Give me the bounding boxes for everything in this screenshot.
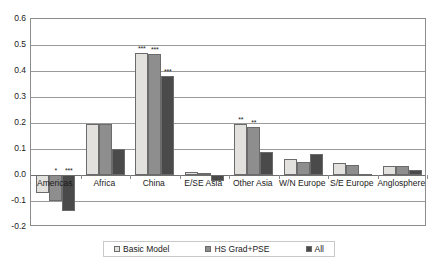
bar-group: [185, 19, 224, 225]
bar: [198, 173, 211, 175]
bar-chart: 0.60.50.40.30.20.10.0-0.1-0.2 **********…: [0, 0, 438, 270]
y-axis-tick-label: 0.5: [0, 40, 26, 49]
bar: [185, 172, 198, 175]
y-axis-tick-label: 0.0: [0, 170, 26, 179]
x-axis-category-label: Anglosphere: [377, 179, 427, 188]
significance-marker: ***: [157, 68, 178, 75]
bar: [333, 163, 346, 175]
x-axis-category-label: Americas: [30, 179, 80, 188]
y-axis-tick-label: 0.3: [0, 92, 26, 101]
bar-group: [383, 19, 422, 225]
bar-group: [284, 19, 323, 225]
plot-area: *****************: [30, 18, 426, 226]
y-axis-tick-label: 0.4: [0, 66, 26, 75]
bar: [234, 124, 247, 175]
bar-group: *********: [135, 19, 174, 225]
x-axis-category-label: W/N Europe: [278, 179, 328, 188]
bar: [396, 166, 409, 175]
significance-marker: **: [243, 119, 264, 126]
bar: [260, 152, 273, 175]
legend-swatch-light: [114, 246, 120, 252]
bar: [284, 159, 297, 175]
legend-item: Basic Model: [114, 244, 169, 254]
bar: [297, 162, 310, 175]
bar: [161, 76, 174, 175]
bar: [359, 174, 372, 176]
bar: [310, 154, 323, 175]
y-axis-tick-label: -0.1: [0, 196, 26, 205]
x-axis-tick-mark: [427, 175, 428, 179]
y-axis-tick-label: 0.6: [0, 14, 26, 23]
x-axis-category-label: E/SE Asia: [179, 179, 229, 188]
x-axis-category-label: Africa: [80, 179, 130, 188]
bar-group: [86, 19, 125, 225]
legend-item: All: [306, 244, 324, 254]
y-axis-tick-label: 0.2: [0, 118, 26, 127]
legend-item: HS Grad+PSE: [205, 244, 269, 254]
y-axis-tick-label: 0.1: [0, 144, 26, 153]
bar: [346, 165, 359, 175]
legend-item-label: Basic Model: [123, 244, 169, 254]
bar: [112, 149, 125, 175]
legend-item-label: HS Grad+PSE: [214, 244, 269, 254]
bar: [247, 127, 260, 175]
bar: [135, 53, 148, 175]
y-axis-tick-label: -0.2: [0, 222, 26, 231]
chart-legend: Basic ModelHS Grad+PSEAll: [103, 241, 335, 257]
significance-marker: ***: [144, 46, 165, 53]
legend-swatch-medium: [205, 246, 211, 252]
bar: [409, 170, 422, 175]
significance-marker: ***: [58, 167, 79, 174]
legend-item-label: All: [315, 244, 324, 254]
x-axis-category-label: S/E Europe: [327, 179, 377, 188]
bar: [86, 124, 99, 175]
bar: [99, 124, 112, 175]
bar-group: ****: [234, 19, 273, 225]
legend-swatch-dark: [306, 246, 312, 252]
x-axis-category-label: Other Asia: [228, 179, 278, 188]
bar: [383, 166, 396, 175]
x-axis-category-label: China: [129, 179, 179, 188]
bar-group: ****: [36, 19, 75, 225]
bar-group: [333, 19, 372, 225]
